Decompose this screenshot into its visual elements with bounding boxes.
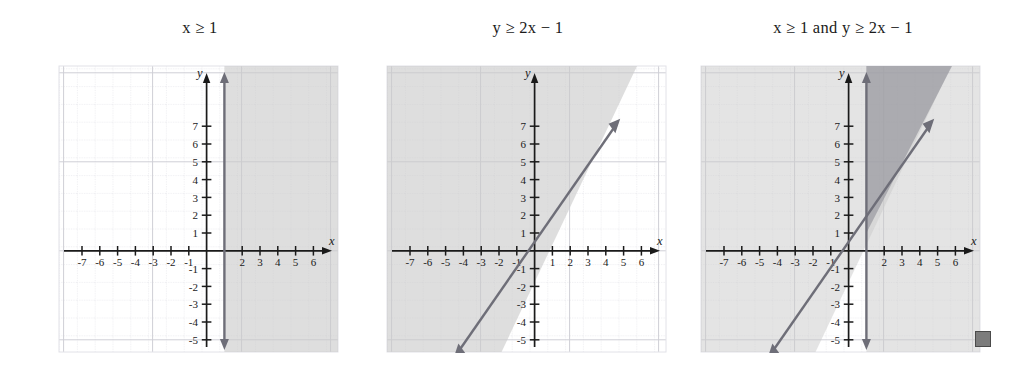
shaded-region-x-ge-1 bbox=[224, 66, 338, 352]
svg-text:6: 6 bbox=[311, 256, 317, 268]
y-axis-label-3: y bbox=[837, 66, 845, 80]
svg-text:-7: -7 bbox=[77, 256, 87, 268]
svg-text:5: 5 bbox=[293, 256, 299, 268]
svg-text:-3: -3 bbox=[517, 298, 527, 310]
svg-text:2: 2 bbox=[835, 209, 841, 221]
graph-panel-x-ge-1: x ≥ 1 bbox=[40, 0, 360, 370]
svg-text:1: 1 bbox=[835, 227, 841, 239]
svg-text:3: 3 bbox=[257, 256, 263, 268]
svg-text:-5: -5 bbox=[441, 256, 451, 268]
plot-area-1: -7 -6 -5 -4 -3 -2 -1 2 3 4 5 6 7 6 bbox=[58, 65, 339, 353]
coordinate-plane-3: -7 -6 -5 -4 -3 -2 -1 2 3 4 5 6 7 6 5 bbox=[700, 65, 981, 353]
svg-text:-2: -2 bbox=[189, 281, 198, 293]
svg-text:-2: -2 bbox=[494, 256, 503, 268]
svg-text:1: 1 bbox=[521, 227, 527, 239]
svg-text:-2: -2 bbox=[517, 281, 526, 293]
corner-marker-square bbox=[975, 331, 991, 347]
svg-text:-7: -7 bbox=[719, 256, 729, 268]
svg-text:3: 3 bbox=[521, 192, 527, 204]
svg-text:4: 4 bbox=[603, 256, 609, 268]
svg-text:2: 2 bbox=[521, 209, 527, 221]
svg-text:4: 4 bbox=[275, 256, 281, 268]
y-axis-label-1: y bbox=[195, 66, 203, 80]
svg-text:3: 3 bbox=[193, 192, 199, 204]
svg-text:-5: -5 bbox=[831, 334, 841, 346]
svg-text:5: 5 bbox=[935, 256, 941, 268]
svg-text:5: 5 bbox=[835, 156, 841, 168]
graph-panel-intersection: x ≥ 1 and y ≥ 2x − 1 bbox=[678, 0, 1008, 370]
svg-text:-4: -4 bbox=[773, 256, 783, 268]
svg-text:6: 6 bbox=[953, 256, 959, 268]
svg-text:-3: -3 bbox=[149, 256, 159, 268]
svg-text:-2: -2 bbox=[166, 256, 175, 268]
svg-text:-6: -6 bbox=[737, 256, 747, 268]
svg-text:4: 4 bbox=[193, 174, 199, 186]
svg-text:-5: -5 bbox=[517, 334, 527, 346]
svg-text:-4: -4 bbox=[831, 316, 841, 328]
svg-text:-1: -1 bbox=[189, 263, 198, 275]
svg-text:7: 7 bbox=[193, 120, 199, 132]
panel-title-3: x ≥ 1 and y ≥ 2x − 1 bbox=[678, 18, 1008, 38]
svg-text:2: 2 bbox=[239, 256, 245, 268]
svg-text:6: 6 bbox=[835, 138, 841, 150]
svg-text:-4: -4 bbox=[189, 316, 199, 328]
coordinate-plane-2: -7 -6 -5 -4 -3 -2 -1 1 2 3 4 5 6 7 6 bbox=[386, 65, 667, 353]
svg-text:5: 5 bbox=[621, 256, 627, 268]
coordinate-plane-1: -7 -6 -5 -4 -3 -2 -1 2 3 4 5 6 7 6 bbox=[58, 65, 339, 353]
svg-text:-4: -4 bbox=[131, 256, 141, 268]
svg-text:-4: -4 bbox=[517, 316, 527, 328]
svg-text:1: 1 bbox=[193, 227, 199, 239]
svg-text:4: 4 bbox=[917, 256, 923, 268]
svg-text:-5: -5 bbox=[113, 256, 123, 268]
svg-text:-3: -3 bbox=[831, 298, 841, 310]
svg-text:-2: -2 bbox=[831, 281, 840, 293]
plot-area-2: -7 -6 -5 -4 -3 -2 -1 1 2 3 4 5 6 7 6 bbox=[386, 65, 667, 353]
svg-text:2: 2 bbox=[881, 256, 887, 268]
svg-text:-6: -6 bbox=[95, 256, 105, 268]
svg-text:4: 4 bbox=[521, 174, 527, 186]
x-axis-label-3: x bbox=[970, 234, 977, 248]
graph-panel-y-ge-2x-minus-1: y ≥ 2x − 1 bbox=[368, 0, 688, 370]
svg-text:-6: -6 bbox=[423, 256, 433, 268]
svg-text:-4: -4 bbox=[459, 256, 469, 268]
svg-text:6: 6 bbox=[521, 138, 527, 150]
svg-text:-5: -5 bbox=[755, 256, 765, 268]
plot-area-3: -7 -6 -5 -4 -3 -2 -1 2 3 4 5 6 7 6 5 bbox=[700, 65, 981, 353]
svg-text:5: 5 bbox=[193, 156, 199, 168]
svg-text:1: 1 bbox=[550, 256, 556, 268]
panel-title-1: x ≥ 1 bbox=[40, 18, 360, 38]
y-axis-label-2: y bbox=[523, 66, 531, 80]
svg-text:6: 6 bbox=[639, 256, 645, 268]
svg-text:5: 5 bbox=[521, 156, 527, 168]
panel-title-2: y ≥ 2x − 1 bbox=[368, 18, 688, 38]
svg-text:-2: -2 bbox=[808, 256, 817, 268]
svg-text:-3: -3 bbox=[477, 256, 487, 268]
svg-text:6: 6 bbox=[193, 138, 199, 150]
x-axis-label-2: x bbox=[656, 234, 663, 248]
svg-text:-5: -5 bbox=[189, 334, 199, 346]
svg-text:4: 4 bbox=[835, 174, 841, 186]
x-axis-label-1: x bbox=[328, 234, 335, 248]
svg-text:2: 2 bbox=[567, 256, 573, 268]
svg-text:-3: -3 bbox=[791, 256, 801, 268]
svg-text:3: 3 bbox=[835, 192, 841, 204]
inequality-graphs-figure: x ≥ 1 bbox=[0, 0, 1020, 370]
svg-text:-7: -7 bbox=[405, 256, 415, 268]
svg-text:-3: -3 bbox=[189, 298, 199, 310]
svg-text:2: 2 bbox=[193, 209, 199, 221]
svg-text:7: 7 bbox=[521, 120, 527, 132]
svg-text:3: 3 bbox=[585, 256, 591, 268]
svg-text:3: 3 bbox=[899, 256, 905, 268]
svg-text:7: 7 bbox=[835, 120, 841, 132]
